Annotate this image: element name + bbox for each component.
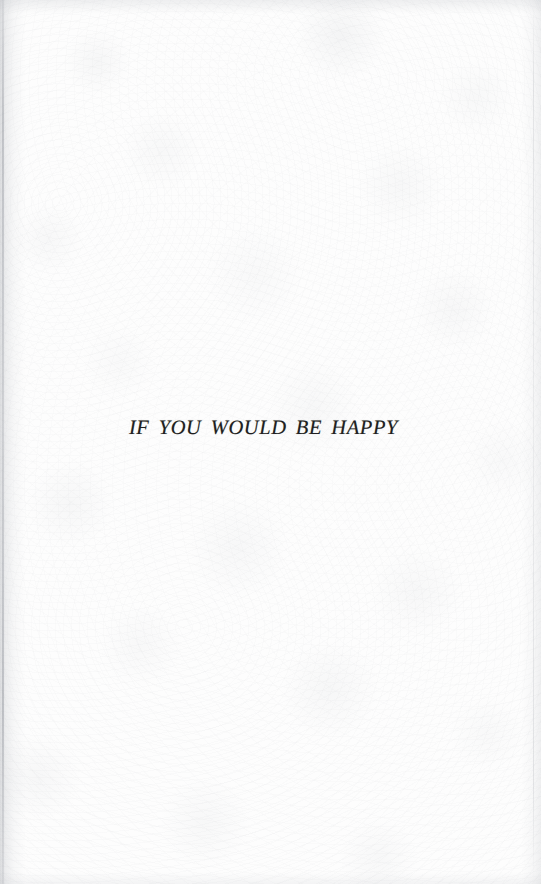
page-right-edge-shadow [521, 0, 541, 884]
paper-texture-overlay [0, 0, 541, 884]
page-left-edge-line [2, 0, 4, 884]
page-top-edge-shadow [0, 0, 541, 14]
section-title: IF YOU WOULD BE HAPPY [129, 416, 398, 441]
page-bottom-edge-shadow [0, 872, 541, 884]
section-title-block: IF YOU WOULD BE HAPPY [0, 416, 527, 441]
page-right-edge-line [533, 0, 534, 884]
page-left-binding-shadow [0, 0, 26, 884]
book-page-scan: IF YOU WOULD BE HAPPY [0, 0, 541, 884]
